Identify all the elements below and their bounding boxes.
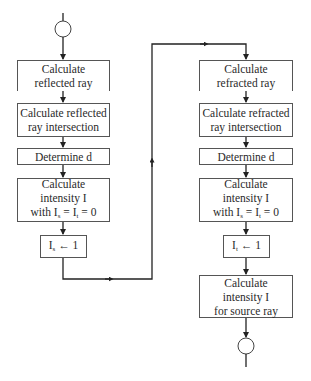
end-connector-circle	[238, 338, 254, 354]
box-is-assign-1: Is ← 1	[40, 235, 87, 258]
start-connector-circle	[55, 21, 71, 37]
box-it-assign-1: It ← 1	[223, 235, 270, 258]
box-determine-d-left: Determine d	[17, 148, 110, 165]
box-refracted-ray-intersection: Calculate refracted ray intersection	[199, 103, 293, 137]
box-determine-d-right: Determine d	[199, 148, 293, 165]
box-calculate-reflected-ray: Calculate reflected ray	[17, 60, 110, 91]
box-calculate-refracted-ray: Calculate refracted ray	[199, 60, 293, 91]
flowchart-canvas: Calculate reflected ray Calculate reflec…	[0, 0, 311, 381]
box-calculate-intensity-right: Calculate intensity I with Is = It = 0	[199, 178, 293, 222]
box-intensity-source-ray: Calculate intensity I for source ray	[199, 275, 293, 318]
box-reflected-ray-intersection: Calculate reflected ray intersection	[17, 103, 110, 137]
box-calculate-intensity-left: Calculate intensity I with Is = It = 0	[17, 178, 110, 222]
